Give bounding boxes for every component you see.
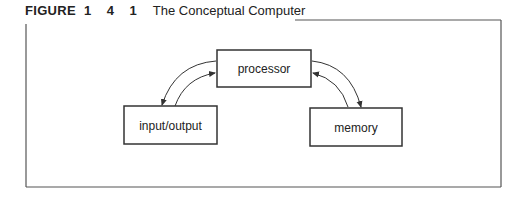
figure-frame <box>26 20 501 187</box>
processor-label: processor <box>217 63 311 75</box>
input-output-label: input/output <box>124 120 217 132</box>
memory-label: memory <box>310 122 402 134</box>
arrow-processor-to-memory <box>312 61 361 107</box>
diagram-canvas <box>0 0 525 198</box>
arrow-memory-to-processor <box>313 73 348 107</box>
arrow-io-to-processor <box>175 73 215 106</box>
arrow-processor-to-io <box>162 61 216 105</box>
